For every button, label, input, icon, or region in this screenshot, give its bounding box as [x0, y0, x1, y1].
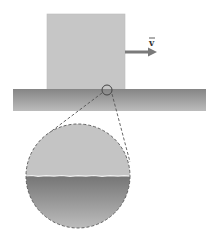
magnified-view — [20, 120, 140, 232]
block — [47, 14, 125, 90]
velocity-arrow-icon — [125, 48, 157, 57]
contact-interface — [26, 176, 131, 177]
surface — [13, 89, 206, 111]
friction-diagram: v — [0, 0, 214, 237]
velocity-label: v — [148, 38, 155, 48]
